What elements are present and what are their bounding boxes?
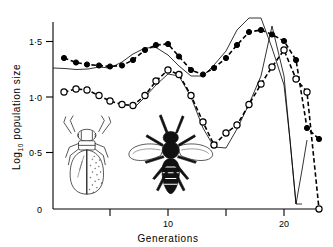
- data-point: [84, 87, 90, 93]
- data-point: [234, 122, 240, 128]
- y-axis-title-subscript: 10: [17, 143, 24, 151]
- data-point: [293, 76, 299, 82]
- data-point: [246, 101, 252, 107]
- y-axis-title-main: population size: [11, 64, 22, 140]
- series-filled-line: [64, 30, 319, 139]
- data-point: [269, 64, 275, 70]
- data-point: [96, 63, 101, 68]
- data-point: [142, 47, 147, 52]
- figure-container: 1·5 1·0 0·5 0 10 20 Generations Log10 po…: [0, 0, 333, 247]
- data-point: [223, 130, 229, 136]
- data-point: [258, 81, 264, 87]
- model-curve-lower: [133, 26, 302, 204]
- x-tick-label-20: 20: [279, 219, 289, 229]
- y-axis-title-prefix: Log: [11, 152, 22, 171]
- data-point: [188, 67, 193, 72]
- data-point: [119, 63, 124, 68]
- data-point: [316, 206, 322, 212]
- data-point: [200, 72, 205, 77]
- data-point: [200, 119, 206, 125]
- data-point: [107, 98, 113, 104]
- data-point: [234, 42, 239, 47]
- x-axis-title: Generations: [137, 233, 198, 244]
- y-tick-label-1-5: 1·5: [29, 37, 42, 47]
- data-point: [119, 101, 125, 107]
- data-point: [84, 62, 89, 67]
- data-point: [130, 57, 135, 62]
- data-point: [153, 42, 158, 47]
- y-axis-title: Log10 population size: [11, 64, 24, 170]
- whitefly-illustration: [64, 116, 111, 194]
- data-point: [96, 92, 102, 98]
- data-point: [153, 78, 159, 84]
- series-filled-circles: [61, 27, 321, 141]
- data-point: [61, 89, 67, 95]
- data-point: [176, 71, 182, 77]
- data-point: [316, 136, 321, 141]
- data-point: [165, 67, 171, 73]
- data-point: [293, 57, 298, 62]
- parasitoid-wasp-illustration: [129, 115, 213, 194]
- population-dynamics-chart: 1·5 1·0 0·5 0 10 20 Generations Log10 po…: [0, 0, 333, 247]
- data-point: [142, 92, 148, 98]
- data-point: [281, 38, 286, 43]
- data-point: [107, 64, 112, 69]
- data-point: [304, 89, 310, 95]
- data-point: [269, 32, 274, 37]
- data-point: [258, 27, 263, 32]
- data-point: [211, 65, 216, 70]
- y-tick-label-0-5: 0·5: [29, 148, 42, 158]
- y-tick-label-0: 0: [37, 205, 42, 215]
- y-tick-label-1-0: 1·0: [29, 93, 42, 103]
- data-point: [188, 92, 194, 98]
- data-point: [61, 55, 66, 60]
- data-point: [246, 29, 251, 34]
- data-point: [304, 125, 309, 130]
- data-point: [73, 86, 79, 92]
- data-point: [73, 60, 78, 65]
- data-point: [223, 55, 228, 60]
- data-point: [176, 54, 181, 59]
- data-point: [130, 102, 136, 108]
- x-tick-label-10: 10: [163, 219, 173, 229]
- data-point: [165, 41, 170, 46]
- data-point: [211, 142, 217, 148]
- tick-labels: 1·5 1·0 0·5 0 10 20: [29, 37, 289, 229]
- data-point: [281, 47, 287, 53]
